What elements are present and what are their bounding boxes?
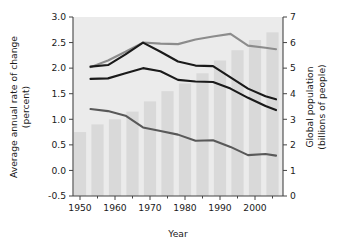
y-right-tick-label: 1: [290, 165, 296, 176]
bar: [144, 101, 156, 196]
bar: [249, 40, 261, 196]
y-axis-left-title-line2: (percent): [20, 86, 31, 128]
bar: [109, 119, 121, 196]
y-left-tick-label: 0.0: [51, 165, 66, 176]
x-tick-label: 2000: [243, 202, 267, 213]
x-tick-label: 1970: [138, 202, 162, 213]
y-axis-right-title-line1: Global population: [304, 66, 315, 147]
x-tick-label: 1990: [208, 202, 232, 213]
y-axis-left-title-line1: Average annual rate of change: [8, 36, 19, 178]
y-left-tick-label: 0.5: [51, 139, 66, 150]
bar: [161, 91, 173, 196]
y-right-tick-label: 7: [290, 11, 296, 22]
y-left-tick-label: -0.5: [48, 190, 66, 201]
bar: [214, 60, 226, 196]
x-tick-label: 1950: [68, 202, 92, 213]
y-axis-right-title-line2: (billions of people): [316, 64, 327, 149]
y-right-tick-label: 2: [290, 139, 296, 150]
y-right-tick-label: 5: [290, 62, 296, 73]
x-tick-label: 1980: [173, 202, 197, 213]
x-tick-label: 1960: [103, 202, 127, 213]
y-right-tick-label: 0: [290, 190, 296, 201]
bar: [74, 132, 86, 196]
y-left-tick-label: 3.0: [51, 11, 66, 22]
bar: [179, 83, 191, 196]
bar: [196, 73, 208, 196]
bar: [266, 32, 278, 196]
y-left-tick-label: 1.5: [51, 88, 66, 99]
y-right-tick-label: 4: [290, 88, 296, 99]
chart-figure: 1950196019701980199020003.02.52.01.51.00…: [0, 0, 343, 245]
y-right-tick-label: 3: [290, 114, 296, 125]
x-axis-title: Year: [167, 228, 188, 239]
y-left-tick-label: 2.0: [51, 62, 66, 73]
bar: [231, 50, 243, 196]
y-right-tick-label: 6: [290, 37, 296, 48]
y-left-tick-label: 2.5: [51, 37, 66, 48]
bar: [91, 124, 103, 196]
population-growth-chart: 1950196019701980199020003.02.52.01.51.00…: [0, 0, 343, 245]
y-left-tick-label: 1.0: [51, 114, 66, 125]
